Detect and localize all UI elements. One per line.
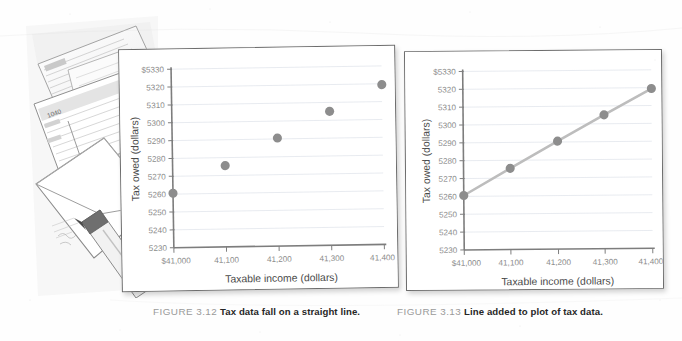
y-tick-label: 5230 bbox=[439, 246, 458, 255]
x-axis-label: Taxable income (dollars) bbox=[225, 272, 338, 285]
y-tick-label: 5310 bbox=[147, 101, 166, 110]
y-tick-label: 5280 bbox=[438, 157, 457, 166]
figure-3-13-panel: $5330 5320 5310 5300 5290 5280 5270 5260… bbox=[404, 49, 664, 291]
line-chart-3-13: $5330 5320 5310 5300 5290 5280 5270 5260… bbox=[405, 50, 663, 290]
scatter-chart-3-12: $5330 5320 5310 5300 5290 5280 5270 5260… bbox=[119, 46, 398, 291]
figure-3-12-panel: $5330 5320 5310 5300 5290 5280 5270 5260… bbox=[118, 45, 399, 292]
y-tick-label: 5300 bbox=[438, 121, 457, 130]
y-tick-label: 5300 bbox=[147, 119, 166, 128]
figure-3-12-caption: FIGURE 3.12 Tax data fall on a straight … bbox=[153, 306, 360, 317]
x-tick-label: 41,100 bbox=[214, 256, 239, 265]
y-tick-label: 5250 bbox=[439, 210, 458, 219]
x-tick-label: 41,300 bbox=[593, 257, 618, 266]
x-tick-label: 41,300 bbox=[319, 254, 344, 263]
x-tick-label: 41,200 bbox=[546, 258, 571, 267]
data-point bbox=[553, 137, 562, 146]
x-tick-label: 41,100 bbox=[499, 258, 524, 267]
y-axis-label: Tax owed (dollars) bbox=[129, 117, 141, 202]
figure-3-13-caption: FIGURE 3.13 Line added to plot of tax da… bbox=[397, 306, 603, 317]
figure-number: FIGURE 3.13 bbox=[397, 306, 461, 317]
y-tick-label: 5240 bbox=[439, 228, 458, 237]
data-point bbox=[459, 191, 468, 200]
y-tick-label: 5290 bbox=[438, 139, 457, 148]
data-point bbox=[647, 84, 656, 93]
x-axis-label: Taxable income (dollars) bbox=[501, 275, 614, 287]
y-tick-label: 5280 bbox=[147, 155, 166, 164]
figure-number: FIGURE 3.12 bbox=[153, 306, 217, 317]
y-tick-label: 5270 bbox=[148, 172, 167, 181]
figure-caption-text: Tax data fall on a straight line. bbox=[220, 306, 360, 317]
x-tick-label: $41,000 bbox=[161, 256, 191, 265]
data-point bbox=[599, 110, 608, 119]
y-axis-label: Tax owed (dollars) bbox=[420, 119, 432, 204]
y-tick-label: 5260 bbox=[439, 192, 458, 201]
page-root: 1040 bbox=[0, 0, 682, 341]
y-tick-label: 5240 bbox=[148, 226, 167, 235]
y-tick-label: 5250 bbox=[148, 208, 167, 217]
y-tick-label: 5320 bbox=[146, 83, 165, 92]
y-tick-label: 5230 bbox=[149, 244, 168, 253]
data-point bbox=[506, 164, 515, 173]
x-tick-label: 41,200 bbox=[267, 255, 292, 264]
y-tick-label: 5320 bbox=[438, 85, 457, 94]
y-tick-label: 5290 bbox=[147, 137, 166, 146]
figure-caption-text: Line added to plot of tax data. bbox=[464, 306, 603, 317]
y-tick-label: 5260 bbox=[148, 190, 167, 199]
y-tick-label: 5310 bbox=[438, 103, 457, 112]
y-tick-label: $5330 bbox=[141, 65, 164, 74]
x-tick-label: 41,400 bbox=[370, 253, 395, 262]
y-tick-label: $5330 bbox=[433, 67, 456, 76]
x-tick-label: 41,400 bbox=[638, 257, 663, 266]
y-tick-label: 5270 bbox=[439, 175, 458, 184]
x-tick-label: $41,000 bbox=[452, 259, 482, 268]
